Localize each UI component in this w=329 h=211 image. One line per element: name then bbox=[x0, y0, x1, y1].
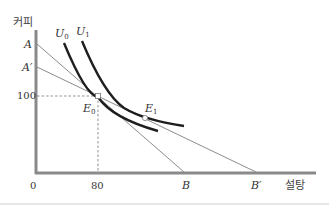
curve-U1-label: U1 bbox=[76, 25, 90, 39]
consumer-choice-diagram: 커피 설탕 0 100 80 A A′ B B′ E0 E1 U0 U1 bbox=[0, 0, 329, 211]
curve-U1-subscript: 1 bbox=[85, 31, 89, 39]
point-E1-letter: E bbox=[144, 102, 153, 115]
point-E0-label: E0 bbox=[82, 102, 96, 116]
curve-U0-subscript: 0 bbox=[64, 33, 68, 41]
y-tick-100: 100 bbox=[17, 90, 36, 101]
budget-line-AB bbox=[37, 44, 184, 172]
x-axis-label: 설탕 bbox=[285, 179, 305, 192]
y-axis-label: 커피 bbox=[13, 16, 33, 29]
point-E0-letter: E bbox=[82, 102, 91, 115]
curve-U0-label: U0 bbox=[55, 27, 69, 41]
point-E1-label: E1 bbox=[144, 102, 158, 116]
point-B-label: B bbox=[181, 179, 190, 192]
point-E0-subscript: 0 bbox=[91, 108, 95, 116]
point-E1-subscript: 1 bbox=[153, 108, 157, 116]
point-B-prime-label: B′ bbox=[250, 179, 262, 192]
point-E1-marker bbox=[142, 115, 147, 120]
origin-label: 0 bbox=[30, 180, 36, 191]
point-A-label: A bbox=[23, 38, 32, 51]
point-E0-marker bbox=[96, 94, 101, 99]
indifference-curve-U1 bbox=[82, 41, 184, 126]
point-A-prime-label: A′ bbox=[21, 61, 33, 74]
x-tick-80: 80 bbox=[91, 180, 104, 191]
